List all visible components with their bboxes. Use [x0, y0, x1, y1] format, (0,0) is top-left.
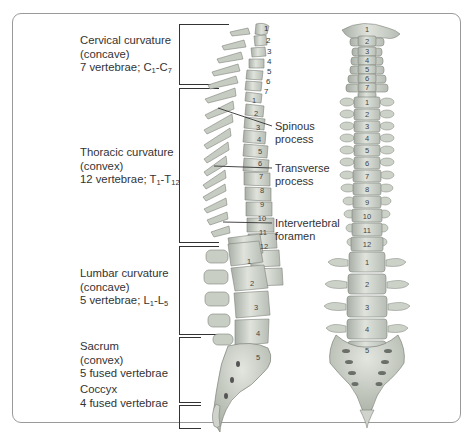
- svg-text:12: 12: [260, 242, 268, 251]
- svg-text:2: 2: [365, 110, 369, 119]
- svg-text:6: 6: [266, 77, 271, 86]
- svg-text:2: 2: [254, 109, 258, 118]
- svg-text:12: 12: [363, 240, 371, 249]
- lateral-coccyx: [212, 404, 220, 428]
- svg-text:11: 11: [259, 228, 267, 237]
- lateral-sacrum: [214, 343, 271, 432]
- lateral-spine: 1 2 3 4 5 6 7 1 2 3 4 5 6 7 8 9 10 11 12…: [203, 23, 283, 432]
- svg-text:3: 3: [267, 47, 272, 56]
- svg-text:6: 6: [258, 159, 262, 168]
- svg-text:1: 1: [365, 25, 369, 34]
- anterior-coccyx: [360, 410, 374, 428]
- svg-text:3: 3: [365, 303, 369, 312]
- svg-text:5: 5: [365, 65, 369, 74]
- svg-text:4: 4: [267, 57, 272, 66]
- svg-text:7: 7: [365, 172, 369, 181]
- svg-text:8: 8: [365, 185, 369, 194]
- svg-text:7: 7: [264, 87, 269, 96]
- svg-text:1: 1: [252, 96, 256, 105]
- svg-text:1: 1: [365, 258, 369, 267]
- svg-text:3: 3: [254, 303, 258, 312]
- svg-text:10: 10: [258, 214, 266, 223]
- svg-text:1: 1: [365, 98, 369, 107]
- svg-text:4: 4: [365, 325, 369, 334]
- svg-text:5: 5: [365, 346, 369, 355]
- spinous-process-label: Spinousprocess: [275, 120, 315, 146]
- svg-text:2: 2: [365, 37, 369, 46]
- svg-text:3: 3: [365, 47, 369, 56]
- svg-text:11: 11: [363, 226, 371, 235]
- transverse-process-label: Transverseprocess: [275, 162, 330, 188]
- svg-text:5: 5: [258, 147, 262, 156]
- svg-text:5: 5: [365, 146, 369, 155]
- svg-text:3: 3: [365, 122, 369, 131]
- svg-text:6: 6: [365, 74, 369, 83]
- svg-text:6: 6: [365, 159, 369, 168]
- svg-text:7: 7: [365, 83, 369, 92]
- svg-text:1: 1: [264, 24, 269, 33]
- svg-text:4: 4: [256, 329, 260, 338]
- svg-text:5: 5: [267, 67, 272, 76]
- svg-text:10: 10: [363, 212, 371, 221]
- svg-text:2: 2: [250, 279, 254, 288]
- svg-text:1: 1: [247, 257, 251, 266]
- svg-text:2: 2: [365, 280, 369, 289]
- svg-text:9: 9: [365, 198, 369, 207]
- svg-text:3: 3: [256, 123, 260, 132]
- svg-text:4: 4: [257, 135, 261, 144]
- spine-illustration: 1 2 3 4 5 6 7 1 2 3 4 5 6 7 8 9 10 11 12…: [0, 0, 475, 438]
- intervertebral-foramen-label: Intervertebralforamen: [275, 217, 340, 243]
- svg-text:7: 7: [259, 172, 263, 181]
- svg-text:5: 5: [256, 353, 260, 362]
- svg-text:2: 2: [266, 36, 271, 45]
- svg-text:8: 8: [260, 186, 264, 195]
- svg-text:4: 4: [365, 56, 369, 65]
- svg-text:9: 9: [260, 200, 264, 209]
- svg-text:4: 4: [365, 134, 369, 143]
